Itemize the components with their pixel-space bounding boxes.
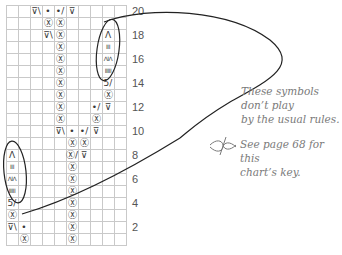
lower-callout-curve bbox=[22, 138, 180, 214]
dragonfly-ornament-icon bbox=[208, 136, 238, 156]
callout-line-2: by the usual rules. bbox=[241, 112, 342, 126]
lower-cluster-oval bbox=[1, 140, 29, 204]
key-line-2: chart’s key. bbox=[240, 165, 342, 179]
annotation-lines bbox=[0, 0, 342, 255]
callout-line-1: These symbols don’t play bbox=[241, 84, 342, 112]
key-note: See page 68 for this chart’s key. bbox=[240, 137, 342, 179]
upper-cluster-oval bbox=[93, 18, 123, 82]
key-line-1: See page 68 for this bbox=[240, 137, 342, 165]
callout-note: These symbols don’t play by the usual ru… bbox=[241, 84, 342, 126]
